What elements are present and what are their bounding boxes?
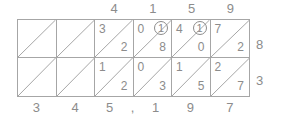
lattice-cell-r0c3: 0 8 1	[134, 20, 173, 58]
cell-tens-digit: 2	[215, 61, 222, 74]
lattice-cell-r1c1	[57, 58, 96, 96]
top-multiplicand-labels: 4 1 5 9	[17, 1, 250, 17]
right-label-row-1: 3	[256, 74, 263, 88]
cell-tens-digit: 3	[99, 23, 106, 36]
lattice-grid: 3 2 0 8 1 4 0 1 7 2	[17, 19, 250, 97]
bottom-label-1: 4	[56, 99, 95, 117]
cell-ones-digit: 5	[198, 80, 205, 93]
cell-ones-digit: 0	[198, 41, 205, 54]
top-label-1	[56, 1, 95, 17]
diagonal-line-icon	[18, 20, 56, 57]
diagonal-line-icon	[57, 20, 95, 57]
lattice-cell-r1c3: 0 3	[134, 58, 173, 96]
cell-carry-digit: 1	[193, 21, 207, 35]
cell-tens-digit: 1	[99, 61, 106, 74]
lattice-cell-r0c4: 4 0 1	[172, 20, 211, 58]
cell-tens-digit: 1	[176, 61, 183, 74]
cell-tens-digit: 0	[138, 23, 145, 36]
lattice-cell-r1c0	[18, 58, 57, 96]
lattice-cell-r1c5: 2 7	[211, 58, 250, 96]
right-multiplier-labels: 8 3	[252, 19, 280, 97]
bottom-label-2: 5	[95, 99, 125, 117]
top-label-4: 5	[172, 1, 211, 17]
cell-ones-digit: 2	[121, 41, 128, 54]
bottom-product-labels: 3 4 5 , 1 9 7	[17, 99, 250, 117]
right-label-row-0: 8	[256, 38, 263, 52]
cell-ones-digit: 2	[121, 80, 128, 93]
top-label-2: 4	[95, 1, 134, 17]
bottom-label-comma: ,	[125, 99, 141, 117]
top-label-5: 9	[211, 1, 250, 17]
bottom-label-6: 7	[210, 99, 250, 117]
cell-ones-digit: 8	[159, 41, 166, 54]
cell-ones-digit: 3	[159, 80, 166, 93]
lattice-multiplication-diagram: 4 1 5 9 3 2	[0, 0, 283, 126]
cell-ones-digit: 2	[237, 41, 244, 54]
top-label-3: 1	[133, 1, 172, 17]
diagonal-line-icon	[57, 58, 95, 96]
lattice-cell-r0c0	[18, 20, 57, 58]
cell-tens-digit: 7	[215, 23, 222, 36]
cell-ones-digit: 7	[237, 80, 244, 93]
bottom-label-5: 9	[171, 99, 210, 117]
cell-tens-digit: 0	[138, 61, 145, 74]
lattice-cell-r0c2: 3 2	[95, 20, 134, 58]
cell-tens-digit: 4	[176, 23, 183, 36]
lattice-cell-r1c2: 1 2	[95, 58, 134, 96]
lattice-cell-r0c1	[57, 20, 96, 58]
top-label-0	[17, 1, 56, 17]
bottom-label-0: 3	[17, 99, 56, 117]
cell-carry-digit: 1	[154, 21, 168, 35]
lattice-cell-r0c5: 7 2	[211, 20, 250, 58]
diagonal-line-icon	[18, 58, 56, 96]
lattice-cell-r1c4: 1 5	[172, 58, 211, 96]
bottom-label-4: 1	[141, 99, 171, 117]
